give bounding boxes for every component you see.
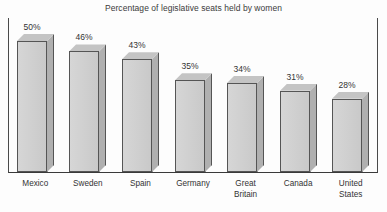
category-label: Sweden: [62, 178, 115, 189]
category-label: Great Britain: [219, 178, 272, 200]
category-label: United States: [324, 178, 377, 200]
chart-title: Percentage of legislative seats held by …: [0, 3, 387, 13]
plot-area-frame: [8, 18, 378, 173]
category-label: Germany: [167, 178, 220, 189]
category-label: Spain: [114, 178, 167, 189]
category-label: Canada: [272, 178, 325, 189]
category-label: Mexico: [9, 178, 62, 189]
bar-chart: Percentage of legislative seats held by …: [0, 0, 387, 212]
